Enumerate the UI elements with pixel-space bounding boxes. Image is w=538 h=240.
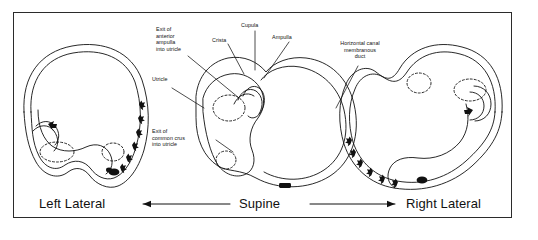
left-utricle-outline	[38, 110, 112, 174]
leader-utricle	[172, 88, 204, 108]
right-dotted-circle-utricle	[454, 79, 486, 101]
right-canal-outer-wall	[340, 45, 502, 190]
leader-exit-anterior-ampulla	[188, 56, 239, 98]
supine-debris-marker	[279, 183, 291, 188]
right-dotted-circle-crus	[407, 73, 431, 93]
caption-supine: Supine	[239, 196, 280, 211]
arrow-to-right-lateral	[310, 201, 395, 207]
right-utricle-outline	[388, 104, 468, 188]
label-exit-common-crus: Exit of common crus into utricle	[152, 128, 185, 148]
label-horizontal-canal-duct: Horizontal canal membranous duct	[323, 40, 397, 60]
supine-crista-base	[234, 94, 254, 104]
caption-right-lateral: Right Lateral	[406, 196, 481, 211]
panel-right-lateral	[340, 45, 502, 190]
left-dotted-circle-crus	[102, 143, 124, 161]
supine-crista-loop	[238, 89, 262, 114]
left-particle-arrows	[120, 100, 146, 173]
label-ampulla: Ampulla	[272, 34, 292, 41]
supine-dotted-circle-utricle	[213, 95, 245, 121]
panel-supine	[196, 57, 356, 186]
leader-exit-common-crus	[216, 140, 233, 152]
figure-container: Exit of anterior ampulla into utricle Cr…	[0, 0, 538, 240]
arrow-to-left-lateral	[143, 201, 230, 207]
leader-horizontal-canal-duct	[336, 66, 358, 108]
caption-left-lateral: Left Lateral	[39, 196, 105, 211]
right-ampulla-loop-a	[470, 92, 484, 120]
label-crista: Crista	[212, 37, 226, 44]
label-cupula: Cupula	[241, 22, 258, 29]
right-ampulla-loop-b	[474, 86, 491, 121]
supine-utricle-outline	[203, 74, 264, 176]
panel-left-lateral	[24, 44, 148, 187]
label-exit-anterior-ampulla: Exit of anterior ampulla into utricle	[156, 26, 181, 52]
leader-crista	[228, 44, 244, 74]
label-utricle: Utricle	[152, 76, 168, 83]
left-canal-outer-wall	[24, 44, 148, 187]
supine-duct-inner-wall	[261, 66, 346, 179]
left-canal-inner-wall	[31, 52, 141, 179]
right-canal-inner-wall	[349, 52, 495, 182]
